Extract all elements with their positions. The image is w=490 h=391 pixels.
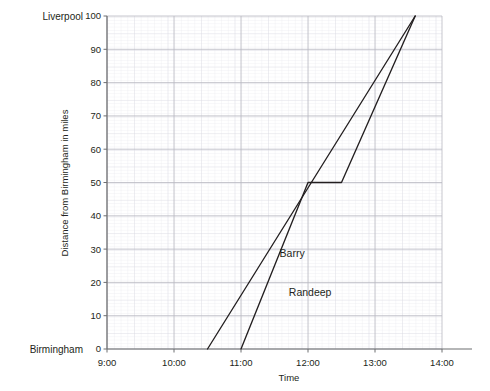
x-axis-tick-labels: 9:0010:0011:0012:0013:0014:00 bbox=[98, 349, 454, 368]
x-tick-label: 11:00 bbox=[229, 357, 252, 368]
x-tick-label: 13:00 bbox=[363, 357, 387, 368]
y-tick-label: 90 bbox=[90, 44, 101, 55]
y-tick-label: 50 bbox=[90, 177, 101, 188]
x-axis-title: Time bbox=[279, 372, 300, 383]
distance-time-chart: BarryRandeep 9:0010:0011:0012:0013:0014:… bbox=[0, 0, 490, 391]
y-tick-label: 0 bbox=[96, 343, 101, 354]
chart-svg: BarryRandeep 9:0010:0011:0012:0013:0014:… bbox=[0, 0, 490, 391]
y-endpoint-label-birmingham: Birmingham bbox=[30, 344, 83, 355]
y-tick-label: 100 bbox=[85, 10, 101, 21]
y-axis-title: Distance from Birmingham in miles bbox=[59, 109, 70, 256]
x-tick-label: 10:00 bbox=[162, 357, 186, 368]
y-tick-label: 30 bbox=[90, 244, 101, 255]
series-label-randeep: Randeep bbox=[289, 286, 332, 298]
y-tick-label: 40 bbox=[90, 210, 101, 221]
y-endpoint-label-liverpool: Liverpool bbox=[42, 11, 83, 22]
y-tick-label: 10 bbox=[90, 310, 101, 321]
y-tick-label: 80 bbox=[90, 77, 101, 88]
y-tick-label: 70 bbox=[90, 110, 101, 121]
y-axis-tick-labels: 0102030405060708090100 bbox=[85, 10, 107, 354]
y-tick-label: 60 bbox=[90, 144, 101, 155]
y-tick-label: 20 bbox=[90, 277, 101, 288]
x-tick-label: 9:00 bbox=[98, 357, 117, 368]
y-axis-endpoint-labels: LiverpoolBirmingham bbox=[30, 11, 83, 355]
x-tick-label: 14:00 bbox=[430, 357, 454, 368]
x-tick-label: 12:00 bbox=[296, 357, 320, 368]
series-label-barry: Barry bbox=[280, 247, 306, 259]
